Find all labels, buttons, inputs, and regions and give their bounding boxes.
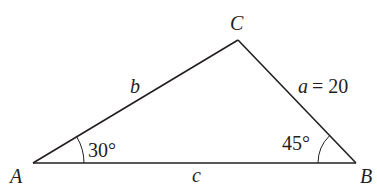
side-label-a: a xyxy=(298,75,308,97)
vertex-label-c: C xyxy=(230,12,244,34)
side-label-b: b xyxy=(130,75,140,97)
angle-arc-b xyxy=(318,136,330,163)
vertex-label-b: B xyxy=(360,165,372,187)
vertex-label-a: A xyxy=(8,165,23,187)
angle-label-a: 30° xyxy=(88,139,116,161)
angle-arc-a xyxy=(77,137,84,163)
triangle-diagram: A B C b a = 20 c 30° 45° xyxy=(0,0,377,196)
side-label-a-value: = 20 xyxy=(312,75,348,97)
angle-label-b: 45° xyxy=(282,132,310,154)
side-b xyxy=(33,40,238,163)
side-label-c: c xyxy=(192,164,201,186)
